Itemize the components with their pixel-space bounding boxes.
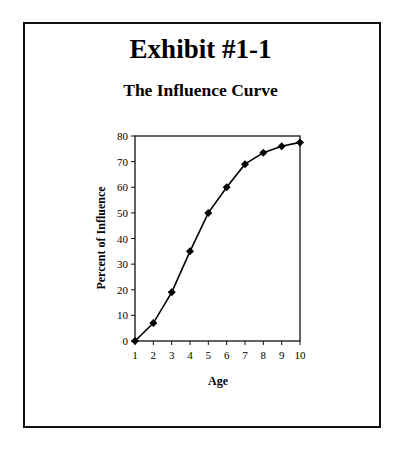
x-axis: 12345678910 (132, 341, 306, 361)
y-axis: 01020304050607080 (117, 130, 135, 347)
diamond-marker-icon (278, 142, 286, 150)
y-tick-label: 20 (117, 284, 129, 296)
y-tick-label: 10 (117, 309, 129, 321)
diamond-marker-icon (259, 149, 267, 157)
y-tick-label: 0 (123, 335, 129, 347)
diamond-marker-icon (168, 288, 176, 296)
x-tick-label: 4 (187, 349, 193, 361)
y-tick-label: 70 (117, 156, 129, 168)
y-tick-label: 40 (117, 233, 129, 245)
x-axis-label: Age (208, 374, 229, 388)
x-tick-label: 7 (242, 349, 248, 361)
diamond-marker-icon (186, 247, 194, 255)
x-tick-label: 2 (151, 349, 157, 361)
series-line (135, 142, 300, 341)
diamond-marker-icon (296, 138, 304, 146)
x-tick-label: 5 (206, 349, 212, 361)
y-tick-label: 60 (117, 181, 129, 193)
plot-frame (135, 136, 300, 341)
x-tick-label: 8 (261, 349, 267, 361)
line-chart: 01020304050607080 12345678910 Percent of… (0, 0, 401, 452)
x-tick-label: 3 (169, 349, 175, 361)
x-tick-label: 10 (295, 349, 307, 361)
x-tick-label: 1 (132, 349, 138, 361)
plot-area (135, 136, 300, 341)
y-tick-label: 50 (117, 207, 129, 219)
data-series (131, 138, 304, 345)
y-tick-label: 80 (117, 130, 129, 142)
y-axis-label: Percent of Influence (94, 186, 108, 290)
x-tick-label: 9 (279, 349, 285, 361)
y-tick-label: 30 (117, 258, 129, 270)
x-tick-label: 6 (224, 349, 230, 361)
